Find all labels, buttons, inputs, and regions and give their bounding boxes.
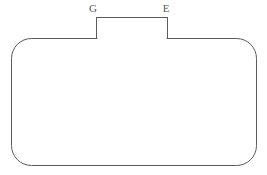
handle-base-mask: [98, 38, 167, 40]
label-e: E: [163, 2, 170, 14]
diagram-canvas: G E: [0, 0, 267, 175]
label-g: G: [89, 2, 97, 14]
handle-rectangle: [97, 18, 168, 39]
body-rounded-rectangle: [12, 39, 257, 166]
container-with-handle-diagram: G E: [0, 0, 267, 175]
